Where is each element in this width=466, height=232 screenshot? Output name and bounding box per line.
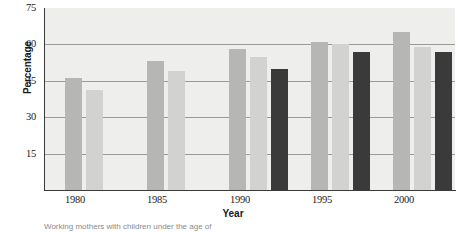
bar-chart-figure: Percentage 75 60 45 30 15 1980 1985 1990… xyxy=(0,0,466,232)
bar-1995-series-2 xyxy=(332,44,349,190)
y-tick-label-30: 30 xyxy=(10,111,36,122)
y-tick-label-60: 60 xyxy=(10,38,36,49)
bar-1985-series-2 xyxy=(168,71,185,190)
x-tick-label-1995: 1995 xyxy=(287,194,357,205)
x-tick-label-1985: 1985 xyxy=(122,194,192,205)
y-tick-label-75: 75 xyxy=(10,2,36,13)
x-tick-label-1990: 1990 xyxy=(205,194,275,205)
y-tick-label-45: 45 xyxy=(10,75,36,86)
bar-1990-series-3 xyxy=(271,69,288,190)
bar-1980-series-2 xyxy=(86,90,103,190)
bar-1995-series-1 xyxy=(311,42,328,190)
x-tick-label-2000: 2000 xyxy=(369,194,439,205)
bar-2000-series-2 xyxy=(414,47,431,190)
bar-1980-series-1 xyxy=(65,78,82,190)
bar-1995-series-3 xyxy=(353,52,370,190)
bar-1985-series-1 xyxy=(147,61,164,190)
bar-1990-series-2 xyxy=(250,57,267,190)
bar-2000-series-1 xyxy=(393,32,410,190)
figure-caption: Working mothers with children under the … xyxy=(44,222,464,231)
bar-2000-series-3 xyxy=(435,52,452,190)
y-tick-label-15: 15 xyxy=(10,148,36,159)
y-axis-title: Percentage xyxy=(22,13,33,123)
plot-area xyxy=(44,8,455,190)
x-tick-label-1980: 1980 xyxy=(40,194,110,205)
x-axis-title: Year xyxy=(0,208,466,219)
bar-1990-series-1 xyxy=(229,49,246,190)
x-axis-line xyxy=(44,190,456,191)
y-axis-line xyxy=(44,8,45,191)
